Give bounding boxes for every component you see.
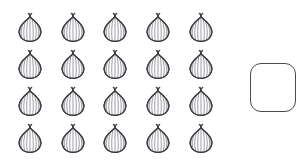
onion-icon: [17, 86, 43, 118]
onion-icon: [102, 12, 128, 44]
onion-icon: [60, 86, 86, 118]
onion-icon: [17, 12, 43, 44]
onion-icon: [145, 86, 171, 118]
onion-icon: [145, 49, 171, 81]
onion-icon: [60, 123, 86, 155]
onion-icon: [102, 49, 128, 81]
onion-icon: [188, 49, 214, 81]
onion-icon: [60, 49, 86, 81]
onion-icon: [188, 12, 214, 44]
onion-icon: [145, 123, 171, 155]
onion-icon: [188, 86, 214, 118]
onion-icon: [188, 123, 214, 155]
onion-icon: [102, 86, 128, 118]
worksheet-canvas: [0, 0, 300, 165]
onion-grid: [0, 0, 232, 165]
onion-icon: [17, 49, 43, 81]
onion-icon: [102, 123, 128, 155]
onion-icon: [145, 12, 171, 44]
answer-box[interactable]: [250, 63, 296, 112]
onion-icon: [17, 123, 43, 155]
onion-icon: [60, 12, 86, 44]
